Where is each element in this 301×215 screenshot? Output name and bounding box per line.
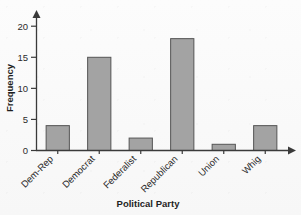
x-tick-label-democrat: Democrat <box>60 153 97 190</box>
x-tick-label-dem-rep: Dem-Rep <box>19 153 56 190</box>
bars-group <box>46 39 277 151</box>
bar-whig <box>254 126 277 151</box>
y-axis-ticks: 05101520 <box>17 21 36 156</box>
y-axis-title: Frequency <box>4 63 15 112</box>
x-axis-title: Political Party <box>117 198 181 209</box>
x-tick-label-union: Union <box>196 153 221 178</box>
bar-democrat <box>88 57 111 150</box>
x-axis-tick-labels: Dem-RepDemocratFederalistRepublicanUnion… <box>19 151 266 195</box>
y-axis-arrow-icon <box>33 10 41 18</box>
y-tick-label: 0 <box>23 145 28 156</box>
chart-svg: 05101520 Dem-RepDemocratFederalistRepubl… <box>0 0 301 215</box>
y-tick-label: 20 <box>17 21 28 32</box>
bar-dem-rep <box>46 126 69 151</box>
x-tick-label-whig: Whig <box>240 153 263 176</box>
y-tick-label: 5 <box>23 114 28 125</box>
bar-chart: 05101520 Dem-RepDemocratFederalistRepubl… <box>0 0 301 215</box>
bar-union <box>212 144 235 150</box>
x-tick-label-republican: Republican <box>138 153 179 194</box>
x-axis-arrow-icon <box>288 147 296 155</box>
x-tick-label-federalist: Federalist <box>101 153 139 191</box>
bar-republican <box>171 39 194 151</box>
y-tick-label: 10 <box>17 83 28 94</box>
y-tick-label: 15 <box>17 52 28 63</box>
bar-federalist <box>129 138 152 150</box>
